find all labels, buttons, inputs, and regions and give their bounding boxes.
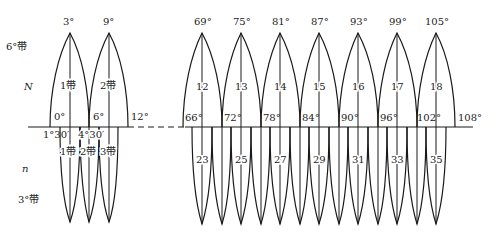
- apex-label-9: 9°: [103, 16, 114, 27]
- north-label: N: [23, 81, 34, 92]
- apex-label: 75°: [233, 16, 251, 27]
- apex-label: 87°: [311, 16, 329, 27]
- zone-label: 16: [352, 81, 365, 92]
- zone-label-3deg: 29: [313, 154, 326, 165]
- apex-label: 69°: [194, 16, 212, 27]
- zone-label-3deg: 31: [352, 154, 365, 165]
- edge-label: 90°: [341, 112, 359, 123]
- gauss-kruger-zone-diagram: 6°带 N n 3°带 3° 9° 1带 2带 0° 6° 12° 69° 75…: [0, 0, 496, 239]
- zone-number-label: n: [22, 163, 28, 174]
- zone-labels-right: 12 13 14 15 16 17 18: [196, 81, 443, 92]
- edge-label-12: 12°: [131, 111, 149, 122]
- edge-label: 84°: [302, 112, 320, 123]
- zone-label-3deg-1: 1带: [60, 146, 76, 157]
- lower-left-zones: [60, 127, 118, 222]
- lower-left-zone-labels: 1带 2带 3带: [60, 146, 116, 157]
- edge-label-1-30: 1°30′: [43, 129, 70, 140]
- zone-label: 13: [235, 81, 248, 92]
- edge-label: 66°: [185, 112, 203, 123]
- lower-right-zones: [192, 127, 446, 224]
- edge-labels-right: 66° 72° 78° 84° 90° 96° 102° 108°: [185, 112, 482, 123]
- zone-label-3deg: 27: [274, 154, 287, 165]
- apex-labels-right: 69° 75° 81° 87° 93° 99° 105°: [194, 16, 449, 27]
- zone-label: 14: [274, 81, 287, 92]
- zone-label-2: 2带: [100, 80, 116, 91]
- apex-label: 93°: [350, 16, 368, 27]
- zone-label-3deg: 35: [430, 154, 443, 165]
- edge-label: 108°: [458, 112, 482, 123]
- edge-label: 72°: [224, 112, 242, 123]
- six-degree-zone-label: 6°带: [6, 41, 27, 52]
- zone-label-3deg: 33: [391, 154, 404, 165]
- edge-label-0: 0°: [54, 111, 65, 122]
- apex-label: 99°: [389, 16, 407, 27]
- zone-label-3deg: 25: [235, 154, 248, 165]
- zone-label: 12: [196, 81, 209, 92]
- zone-label: 17: [391, 81, 404, 92]
- zone-label-3deg: 23: [196, 154, 209, 165]
- edge-label: 78°: [263, 112, 281, 123]
- apex-label-3: 3°: [63, 16, 74, 27]
- apex-label: 81°: [272, 16, 290, 27]
- apex-label: 105°: [425, 16, 449, 27]
- edge-label-4-30: 4°30′: [78, 129, 105, 140]
- edge-label: 96°: [380, 112, 398, 123]
- edge-label: 102°: [417, 112, 441, 123]
- zone-label: 15: [313, 81, 326, 92]
- zone-label: 18: [430, 81, 443, 92]
- edge-label-6: 6°: [93, 111, 104, 122]
- zone-label-1: 1带: [60, 80, 76, 91]
- three-degree-zone-label: 3°带: [18, 194, 39, 205]
- zone-label-3deg-3: 3带: [100, 146, 116, 157]
- zone-label-3deg-2: 2带: [80, 146, 96, 157]
